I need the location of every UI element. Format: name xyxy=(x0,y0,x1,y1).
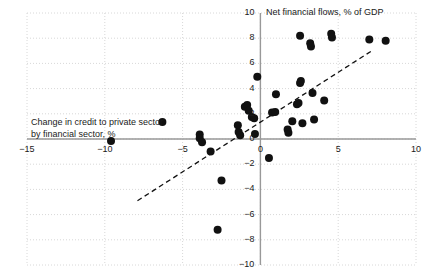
y-tick-label: 0 xyxy=(224,134,254,143)
y-tick-label: −10 xyxy=(224,260,254,269)
x-tick-label: 0 xyxy=(245,145,275,154)
chart-title: Net financial flows, % of GDP xyxy=(266,8,384,18)
trendline xyxy=(137,51,370,200)
x-tick-label: 5 xyxy=(323,145,353,154)
y-tick-label: 2 xyxy=(224,109,254,118)
x-tick-label: 10 xyxy=(401,145,431,154)
y-tick-label: 4 xyxy=(224,84,254,93)
scatter-chart-figure: Net financial flows, % of GDP Change in … xyxy=(0,0,438,276)
y-tick-label: 10 xyxy=(224,8,254,17)
x-tick-label: −10 xyxy=(90,145,120,154)
y-tick-label: 8 xyxy=(224,33,254,42)
y-tick-label: −8 xyxy=(224,235,254,244)
x-axis-label: Change in credit to private sector by fi… xyxy=(31,116,163,140)
y-tick-label: −6 xyxy=(224,210,254,219)
x-tick-label: −5 xyxy=(168,145,198,154)
x-tick-label: −15 xyxy=(12,145,42,154)
y-tick-label: −4 xyxy=(224,184,254,193)
y-tick-label: 6 xyxy=(224,58,254,67)
y-tick-label: −2 xyxy=(224,159,254,168)
